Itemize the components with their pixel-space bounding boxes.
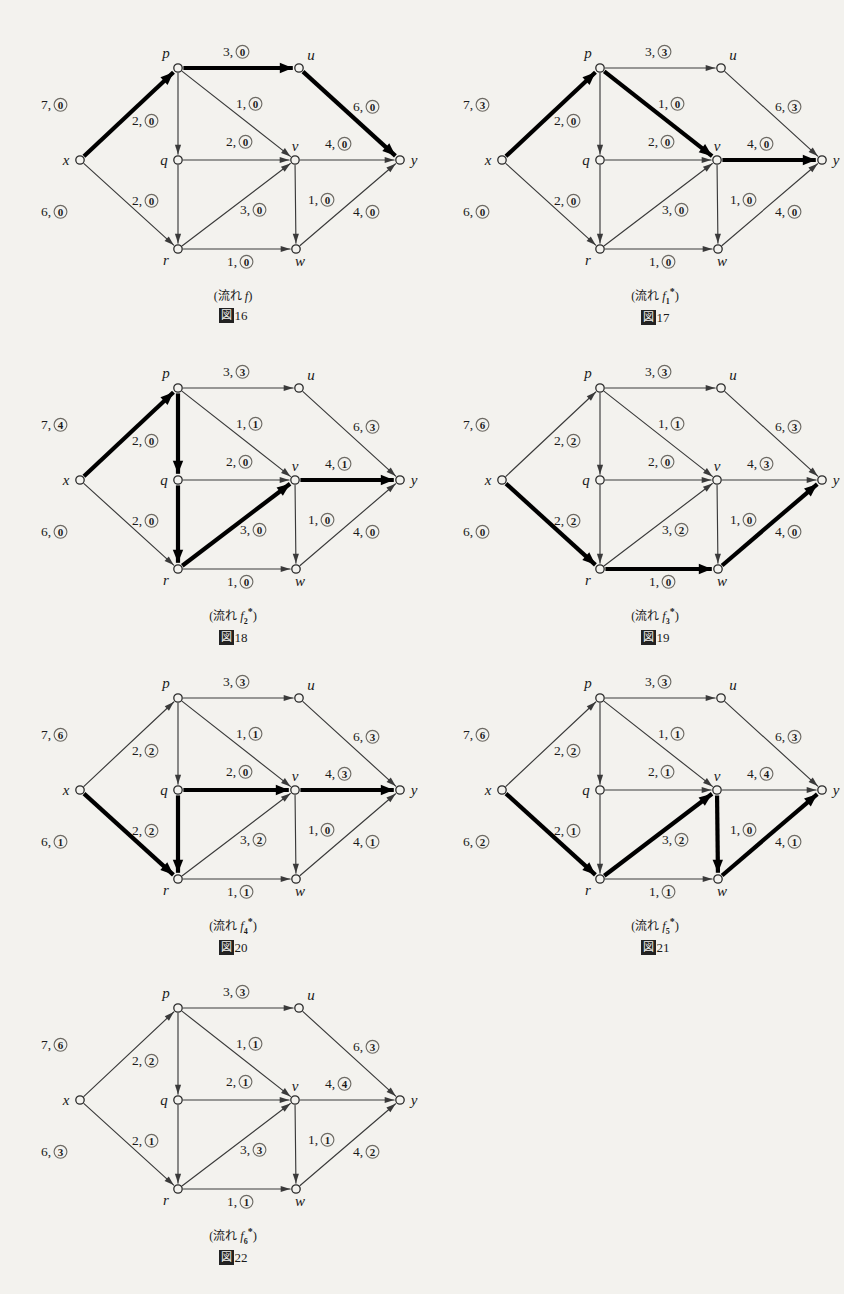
arrow-head — [173, 550, 183, 563]
edge-x-p — [84, 702, 174, 786]
edge-label-v-w: 1,1 — [308, 1132, 334, 1147]
node-circle — [596, 565, 604, 573]
arrow-head — [699, 564, 712, 574]
arrow-head — [281, 1104, 290, 1112]
edge-flow-value: 0 — [747, 194, 753, 206]
edge-q-v — [605, 787, 711, 793]
node-label: x — [62, 472, 70, 488]
edge-label-x-r: 6,1 — [41, 834, 67, 849]
edge-flow-value: 0 — [571, 195, 577, 207]
edge-v-y — [722, 787, 816, 793]
edge-capacity: 1, — [649, 254, 659, 269]
edge-line — [506, 484, 595, 565]
edge-flow-value: 0 — [679, 204, 685, 216]
caption-flow-label: (流れ f) — [18, 286, 448, 304]
edge-flow-value: 0 — [240, 46, 246, 58]
edge-line — [84, 484, 174, 565]
edge-flow-value: 2 — [257, 834, 263, 846]
node-circle — [596, 384, 604, 392]
node-circle — [714, 875, 722, 883]
node-label: y — [409, 1092, 418, 1108]
arrow-head — [281, 876, 291, 882]
node-circle — [295, 384, 303, 392]
edges-layer — [506, 385, 818, 574]
edge-flow-value: 0 — [342, 138, 348, 150]
arrow-head — [175, 775, 181, 785]
edge-label-x-p: 7,3 — [463, 97, 489, 112]
edge-flow-value: 6 — [58, 729, 64, 741]
edge-flow-value: 2 — [480, 836, 486, 848]
node-circle — [717, 694, 725, 702]
edge-capacity: 1, — [730, 192, 740, 207]
edge-label-p-v: 1,1 — [236, 1036, 262, 1051]
edge-line — [295, 795, 296, 873]
edge-capacity: 1, — [236, 1036, 246, 1051]
edge-p-v — [182, 701, 290, 786]
edge-v-y — [300, 1097, 394, 1103]
node-r: r — [163, 245, 182, 268]
edge-flow-value: 0 — [571, 115, 577, 127]
figure-caption: (流れ f3*)図19 — [440, 606, 844, 646]
arrow-head — [703, 876, 713, 882]
caption-flow-label: (流れ f2*) — [18, 606, 448, 626]
node-circle — [596, 786, 604, 794]
node-label: p — [161, 365, 170, 381]
edge-capacity: 7, — [463, 97, 473, 112]
caption-flow-suffix: ) — [248, 289, 252, 303]
node-circle — [291, 786, 299, 794]
node-x: x — [484, 782, 507, 798]
edge-capacity: 4, — [353, 834, 363, 849]
node-circle — [818, 786, 826, 794]
edge-x-r — [84, 484, 174, 565]
edge-v-w — [713, 795, 723, 872]
edge-label-p-v: 1,1 — [236, 416, 262, 431]
caption-figure-kanji: 図 — [219, 308, 234, 323]
node-circle — [174, 875, 182, 883]
edge-flow-value: 1 — [675, 418, 681, 430]
edge-capacity: 4, — [325, 766, 335, 781]
edge-p-u — [605, 65, 715, 71]
node-y: y — [818, 472, 840, 488]
edge-flow-value: 0 — [243, 456, 249, 468]
edge-q-v — [183, 477, 289, 483]
edge-flow-value: 3 — [240, 366, 246, 378]
caption-flow-subscript: 3 — [666, 617, 670, 626]
edge-capacity: 4, — [353, 524, 363, 539]
caption-flow-suffix: ) — [675, 919, 679, 933]
edge-capacity: 4, — [775, 524, 785, 539]
textbook-page: 7,06,03,02,01,02,02,03,01,06,04,01,04,0x… — [0, 0, 844, 1294]
edge-flow-value: 0 — [243, 766, 249, 778]
arrow-head — [706, 385, 716, 391]
arrow-head — [703, 778, 712, 786]
edge-flow-value: 1 — [665, 766, 671, 778]
edge-p-u — [605, 695, 715, 701]
node-label: r — [163, 252, 169, 268]
node-y: y — [396, 152, 418, 168]
edge-capacity: 7, — [463, 727, 473, 742]
edge-line — [84, 72, 174, 156]
edge-flow-value: 0 — [792, 206, 798, 218]
edge-capacity: 2, — [648, 454, 658, 469]
caption-figure-kanji: 図 — [641, 940, 656, 955]
arrow-head — [281, 468, 290, 476]
arrow-head — [293, 554, 299, 564]
node-label: p — [583, 45, 592, 61]
edge-label-w-y: 4,0 — [775, 204, 801, 219]
edge-capacity: 2, — [132, 433, 142, 448]
node-circle — [174, 1096, 182, 1104]
node-q: q — [160, 1092, 182, 1108]
edge-capacity: 6, — [775, 729, 785, 744]
edge-flow-value: 0 — [665, 456, 671, 468]
edge-labels-layer: 7,46,03,32,01,12,02,03,01,06,34,11,04,0 — [41, 364, 379, 589]
node-label: y — [409, 782, 418, 798]
edge-flow-value: 3 — [764, 458, 770, 470]
edge-capacity: 4, — [775, 834, 785, 849]
edge-x-r — [84, 794, 173, 875]
node-label: r — [163, 1192, 169, 1208]
edge-flow-value: 1 — [244, 886, 250, 898]
node-circle — [292, 245, 300, 253]
caption-figure-kanji: 図 — [219, 630, 234, 645]
edge-label-v-y: 4,0 — [747, 136, 773, 151]
node-circle — [596, 694, 604, 702]
edge-p-q — [173, 393, 183, 473]
